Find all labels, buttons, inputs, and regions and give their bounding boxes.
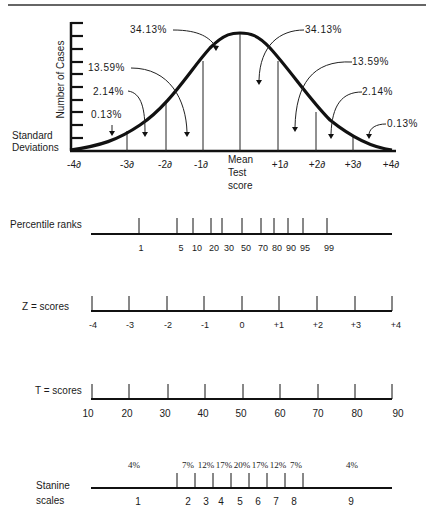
stanine-percent: 4% [128, 460, 140, 470]
percentile-tick-label: 80 [272, 243, 282, 253]
percentile-tick-label: 10 [192, 243, 202, 253]
z-tick-label: -2 [164, 320, 172, 330]
stanine-value: 5 [237, 496, 243, 507]
stanine-label-line: Stanine [36, 478, 70, 493]
sigma-label: +1∂ [272, 159, 288, 170]
sigma-label: -1∂ [194, 159, 208, 170]
area-arrows [112, 30, 386, 134]
stanine-percent: 12% [270, 460, 287, 470]
mean-label-line: score [228, 179, 253, 192]
z-tick-label: -3 [126, 320, 134, 330]
t-tick-label: 40 [197, 408, 208, 419]
percentile-tick-label: 50 [241, 243, 251, 253]
percentile-tick-label: 95 [300, 243, 310, 253]
mean-label: Mean Test score [228, 153, 253, 192]
stanine-value: 4 [218, 496, 224, 507]
t-scale-line [91, 384, 392, 399]
stanine-value: 2 [185, 496, 191, 507]
percentile-tick-label: 1 [138, 243, 143, 253]
stanine-value: 8 [291, 496, 297, 507]
stanine-value: 3 [203, 496, 209, 507]
stanine-label-line: scales [36, 493, 70, 508]
t-tick-label: 80 [351, 408, 362, 419]
percentile-tick-label: 5 [178, 243, 183, 253]
stanine-scale-line [91, 473, 392, 488]
t-tick-label: 30 [159, 408, 170, 419]
area-label-left-13: 13.59% [88, 62, 125, 73]
z-tick-label: 0 [239, 320, 244, 330]
z-tick-label: -1 [201, 320, 209, 330]
z-scale-line [91, 296, 392, 311]
area-label-left-2: 2.14% [93, 86, 124, 97]
sigma-label: -3∂ [120, 159, 134, 170]
stanine-percent: 17% [216, 460, 233, 470]
t-scale-label: T = scores [35, 385, 82, 396]
x-axis-label: Standard Deviations [12, 130, 64, 154]
sd-lines [127, 33, 353, 151]
stanine-percent: 7% [182, 460, 194, 470]
sigma-label: +4∂ [383, 159, 399, 170]
percentile-tick-label: 90 [286, 243, 296, 253]
z-scale-label: Z = scores [22, 301, 69, 312]
mean-label-line: Test [228, 166, 253, 179]
z-tick-label: +3 [351, 320, 361, 330]
percentile-tick-label: 70 [258, 243, 268, 253]
stanine-scale-label: Stanine scales [36, 478, 70, 508]
stanine-value: 9 [348, 496, 354, 507]
area-label-left-34: 34.13% [130, 24, 167, 35]
t-tick-label: 90 [392, 408, 403, 419]
percentile-scale-label: Percentile ranks [10, 219, 82, 230]
percentile-tick-label: 99 [324, 243, 334, 253]
mean-label-line: Mean [228, 153, 253, 166]
x-axis-label-text: Standard Deviations [12, 130, 59, 153]
area-label-right-34: 34.13% [305, 24, 342, 35]
stanine-percent: 7% [290, 460, 302, 470]
sigma-label: +2∂ [309, 159, 325, 170]
stanine-value: 6 [255, 496, 261, 507]
percentile-tick-label: 20 [209, 243, 219, 253]
sigma-label: -2∂ [158, 159, 172, 170]
stanine-percent: 17% [252, 460, 269, 470]
z-tick-label: +2 [313, 320, 323, 330]
y-axis [71, 22, 83, 151]
y-axis-label: Number of Cases [55, 40, 66, 120]
t-tick-label: 20 [121, 408, 132, 419]
stanine-percent: 12% [198, 460, 215, 470]
t-tick-label: 50 [235, 408, 246, 419]
area-label-left-0: 0.13% [91, 109, 122, 120]
area-label-right-2: 2.14% [362, 86, 393, 97]
t-tick-label: 70 [312, 408, 323, 419]
sigma-label: -4∂ [67, 159, 81, 170]
t-tick-label: 60 [274, 408, 285, 419]
sigma-label: +3∂ [345, 159, 361, 170]
z-tick-label: +1 [274, 320, 284, 330]
area-label-right-13: 13.59% [352, 56, 389, 67]
t-tick-label: 10 [82, 408, 93, 419]
stanine-value: 1 [135, 496, 141, 507]
z-tick-label: +4 [391, 320, 401, 330]
stanine-percent: 4% [346, 460, 358, 470]
stanine-percent: 20% [234, 460, 251, 470]
percentile-scale-line [91, 218, 392, 234]
area-label-right-0: 0.13% [387, 118, 418, 129]
z-tick-label: -4 [89, 320, 97, 330]
stanine-value: 7 [273, 496, 279, 507]
percentile-tick-label: 30 [224, 243, 234, 253]
